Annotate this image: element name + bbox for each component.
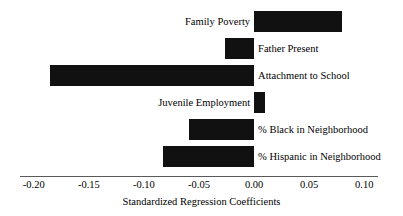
bar-category-label: % Black in Neighborhood: [258, 120, 368, 139]
bar: [189, 119, 254, 140]
x-axis-tick-label: 0.05: [279, 178, 339, 192]
bar: [163, 146, 254, 167]
x-axis-tick-labels: -0.20-0.15-0.10-0.050.000.050.10: [0, 178, 403, 194]
bar-category-label: Father Present: [258, 39, 318, 58]
bar-row: Family Poverty: [0, 8, 403, 35]
bar-category-label: Family Poverty: [185, 12, 250, 31]
bar-category-label: Juvenile Employment: [158, 93, 250, 112]
bar: [254, 11, 342, 32]
plot-area: Family PovertyFather PresentAttachment t…: [0, 0, 403, 176]
bar-row: Attachment to School: [0, 62, 403, 89]
bar: [50, 65, 254, 86]
bar-row: Father Present: [0, 35, 403, 62]
bar: [254, 92, 265, 113]
x-axis-tick-label: -0.15: [59, 178, 119, 192]
x-axis-line: [20, 176, 378, 177]
bar-category-label: % Hispanic in Neighborhood: [258, 147, 381, 166]
bar-row: Juvenile Employment: [0, 89, 403, 116]
x-axis-title: Standardized Regression Coefficients: [0, 194, 403, 209]
bar-row: % Black in Neighborhood: [0, 116, 403, 143]
x-axis-tick-label: -0.10: [114, 178, 174, 192]
x-axis-tick-label: 0.10: [334, 178, 394, 192]
bar-category-label: Attachment to School: [258, 66, 350, 85]
x-axis-tick-label: -0.05: [169, 178, 229, 192]
bar-chart: Family PovertyFather PresentAttachment t…: [0, 0, 403, 216]
x-axis-tick-label: -0.20: [4, 178, 64, 192]
bar-row: % Hispanic in Neighborhood: [0, 143, 403, 170]
bar: [225, 38, 254, 59]
x-axis-tick-label: 0.00: [224, 178, 284, 192]
